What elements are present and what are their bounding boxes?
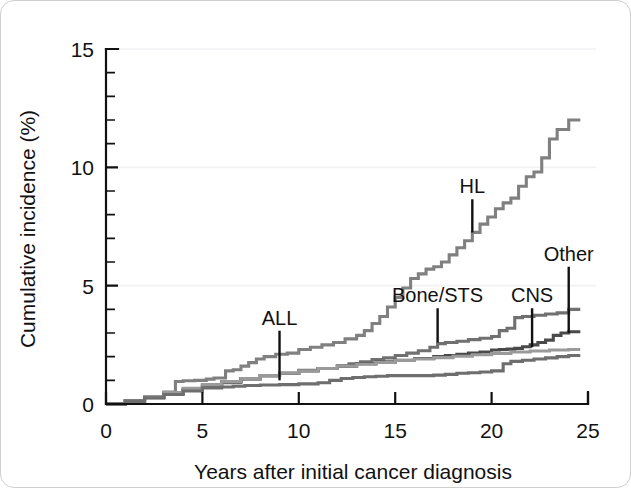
y-tick-label-15: 15 — [71, 38, 94, 61]
x-tick-label-25: 25 — [576, 419, 599, 442]
x-tick-label-10: 10 — [287, 419, 310, 442]
y-tick-label-10: 10 — [71, 156, 94, 179]
gridlines — [106, 49, 596, 286]
y-tick-label-5: 5 — [82, 275, 94, 298]
y-tick-label-0: 0 — [82, 393, 94, 416]
annotation-label-other: Other — [544, 243, 594, 265]
x-tick-label-0: 0 — [100, 419, 112, 442]
annotation-label-hl: HL — [460, 175, 486, 197]
series-line-other — [106, 355, 580, 404]
annotation-label-cns: CNS — [511, 284, 553, 306]
x-tick-label-15: 15 — [384, 419, 407, 442]
series-line-hl — [106, 120, 580, 404]
cumulative-incidence-chart: 0510150510152025 ALLBone/STSHLCNSOther Y… — [1, 1, 631, 488]
annotation-label-all: ALL — [262, 307, 298, 329]
x-tick-label-5: 5 — [197, 419, 209, 442]
series-layer — [106, 120, 580, 404]
figure-container: 0510150510152025 ALLBone/STSHLCNSOther Y… — [0, 0, 631, 488]
x-tick-label-20: 20 — [480, 419, 503, 442]
annotation-all: ALL — [262, 307, 298, 381]
annotation-label-bone-sts: Bone/STS — [392, 284, 483, 306]
annotation-bone-sts: Bone/STS — [392, 284, 483, 342]
series-line-bone-sts — [106, 309, 580, 404]
x-axis-title: Years after initial cancer diagnosis — [194, 460, 512, 483]
y-axis-title: Cumulative incidence (%) — [16, 110, 39, 348]
